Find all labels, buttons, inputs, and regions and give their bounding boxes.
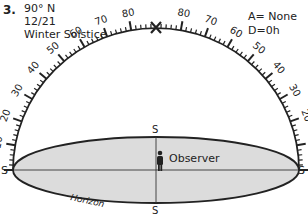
altitude-tick [130, 21, 132, 30]
altitude-tick [20, 115, 24, 116]
altitude-tick [287, 111, 291, 113]
altitude-tick [244, 55, 246, 58]
altitude-tick [10, 150, 14, 151]
altitude-tick-label: 30 [9, 82, 25, 99]
altitude-tick [87, 41, 89, 45]
altitude-tick [6, 144, 15, 146]
altitude-tick [40, 73, 47, 79]
altitude-tick-label: 70 [203, 13, 219, 28]
altitude-tick-label: 60 [228, 24, 245, 40]
altitude-tick [54, 65, 57, 68]
altitude-tick [13, 118, 21, 121]
altitude-tick [236, 49, 238, 52]
altitude-tick [78, 46, 80, 49]
altitude-tick [80, 39, 85, 47]
altitude-tick [280, 95, 288, 100]
altitude-tick [272, 84, 275, 86]
altitude-tick [47, 72, 50, 75]
altitude-tick [22, 111, 26, 113]
direction-top-s: S [152, 124, 158, 135]
altitude-tick [240, 52, 242, 55]
altitude-tick [24, 95, 32, 100]
altitude-tick [34, 88, 37, 90]
altitude-tick [37, 84, 40, 86]
altitude-tick [290, 118, 298, 121]
altitude-tick [228, 39, 233, 47]
altitude-tick [40, 80, 43, 82]
altitude-tick [259, 69, 262, 72]
observer-label: Observer [169, 152, 220, 165]
altitude-tick [125, 27, 126, 31]
altitude-tick [277, 93, 280, 95]
altitude-tick [285, 106, 289, 108]
altitude-tick [255, 65, 258, 68]
altitude-tick [92, 39, 94, 43]
altitude-tick [275, 88, 278, 90]
altitude-tick [176, 25, 177, 29]
altitude-tick [232, 46, 234, 49]
altitude-tick [181, 21, 183, 30]
altitude-tick-label: 80 [121, 6, 135, 19]
altitude-tick-label: 50 [251, 40, 268, 57]
altitude-tick [296, 140, 300, 141]
altitude-tick [24, 106, 28, 108]
altitude-tick [210, 35, 211, 39]
altitude-tick-label: 60 [67, 24, 84, 40]
altitude-tick-label: 70 [93, 13, 109, 28]
celestial-sphere-diagram: 0102030405060708080706050403020100 S S S… [0, 0, 308, 217]
altitude-tick [262, 72, 265, 75]
altitude-tick [74, 49, 76, 52]
altitude-tick [12, 140, 16, 141]
altitude-tick [136, 25, 137, 29]
altitude-tick [297, 144, 306, 146]
altitude-tick [205, 28, 208, 36]
altitude-tick-label: 20 [0, 108, 13, 124]
altitude-tick [31, 93, 34, 95]
altitude-tick [111, 31, 112, 35]
altitude-tick-label: 80 [177, 6, 191, 19]
altitude-tick-label: 40 [25, 59, 42, 76]
altitude-tick [282, 101, 286, 103]
altitude-tick [269, 80, 272, 82]
altitude-tick [26, 101, 30, 103]
altitude-tick [298, 150, 302, 151]
altitude-tick [70, 52, 72, 55]
altitude-tick [214, 37, 216, 41]
altitude-tick [101, 35, 102, 39]
direction-right-s: S [298, 164, 305, 177]
altitude-tick [50, 69, 53, 72]
altitude-tick [200, 31, 201, 35]
altitude-tick [248, 54, 254, 61]
altitude-tick-label: 50 [44, 40, 61, 57]
altitude-tick [186, 27, 187, 31]
altitude-tick [266, 73, 273, 79]
direction-bottom-s: S [152, 205, 158, 216]
altitude-tick-label: 10 [0, 135, 4, 149]
altitude-tick [219, 39, 221, 43]
direction-left-s: S [1, 164, 8, 177]
altitude-tick-label: 40 [271, 59, 288, 76]
altitude-tick [96, 37, 98, 41]
altitude-tick [289, 115, 293, 116]
altitude-tick [252, 62, 255, 65]
altitude-tick-label: 30 [287, 82, 303, 99]
altitude-tick [104, 28, 107, 36]
altitude-tick [58, 54, 64, 61]
altitude-tick [65, 55, 67, 58]
altitude-tick [58, 62, 61, 65]
altitude-tick-label: 20 [299, 108, 308, 124]
altitude-tick [223, 41, 225, 45]
